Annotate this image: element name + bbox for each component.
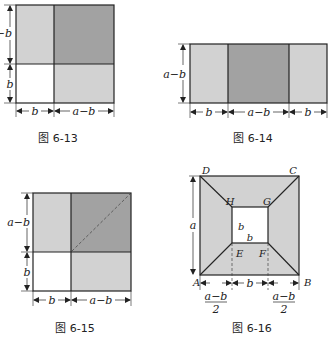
figure-caption: 图 6-15 xyxy=(55,322,94,335)
dim-label: b xyxy=(48,294,55,307)
light-rect-bottom-right xyxy=(54,64,114,103)
fraction-numerator: a−b xyxy=(273,290,296,303)
dim-label: b xyxy=(6,78,13,91)
dim-label: b xyxy=(246,277,253,290)
dark-square xyxy=(54,5,114,64)
light-rect-top-left xyxy=(33,193,71,252)
figure-caption: 图 6-13 xyxy=(38,132,77,145)
dim-label: a−b xyxy=(248,106,271,119)
dim-label: b xyxy=(23,266,30,279)
dim-label: a−b xyxy=(163,68,186,81)
fraction-denominator: 2 xyxy=(280,303,288,316)
dim-label: a−b xyxy=(7,216,30,229)
point-label-b: B xyxy=(303,277,311,288)
dim-label: a xyxy=(190,219,197,232)
inner-bottom-label: b xyxy=(247,232,253,243)
figure-6-15: a−b b b a−b 图 6-15 xyxy=(7,193,131,335)
white-square xyxy=(33,252,71,291)
point-label-a: A xyxy=(192,277,200,288)
white-square xyxy=(16,64,54,103)
figure-6-14: a−b b a−b b 图 6-14 xyxy=(163,44,327,145)
light-rect-bottom-right xyxy=(71,252,131,291)
point-label-h: H xyxy=(225,196,235,207)
inner-side-label: b xyxy=(238,221,244,232)
dim-label: a−b xyxy=(73,105,96,118)
point-label-f: F xyxy=(258,248,267,259)
dim-label: a−b xyxy=(90,294,113,307)
point-label-c: C xyxy=(289,165,297,176)
figure-caption: 图 6-16 xyxy=(232,322,271,335)
point-label-g: G xyxy=(263,196,271,207)
figure-caption: 图 6-14 xyxy=(233,132,272,145)
light-rect-left xyxy=(190,44,228,103)
dark-square xyxy=(228,44,289,103)
figure-6-13: a−b b b a−b 图 6-13 xyxy=(0,5,114,145)
fraction-numerator: a−b xyxy=(205,290,228,303)
dim-label: b xyxy=(205,106,212,119)
dim-label: a−b xyxy=(0,27,12,40)
figure-canvas: a−b b b a−b 图 6-13 a−b b xyxy=(0,0,333,337)
fraction-denominator: 2 xyxy=(212,303,220,316)
light-rect-right xyxy=(289,44,327,103)
point-label-d: D xyxy=(201,165,210,176)
point-label-e: E xyxy=(235,248,244,259)
figure-6-16: D C A B H G E F b b a b a−b 2 a−b 2 图 6-… xyxy=(189,165,311,335)
dim-label: b xyxy=(31,105,38,118)
dim-label: b xyxy=(304,106,311,119)
light-rect-top-left xyxy=(16,5,54,64)
